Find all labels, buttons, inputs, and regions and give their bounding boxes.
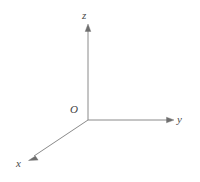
z-axis-label: z — [82, 10, 86, 21]
x-axis-arrowhead-icon — [29, 156, 39, 160]
origin-label: O — [70, 104, 78, 115]
x-axis-line — [34, 120, 88, 156]
y-axis-arrowhead-icon — [167, 117, 175, 123]
coordinate-axes-figure: z y x O — [0, 0, 200, 182]
x-axis-label: x — [16, 158, 21, 169]
axes-drawing-canvas — [0, 0, 200, 182]
y-axis-label: y — [177, 114, 182, 125]
z-axis-arrowhead-icon — [85, 24, 91, 32]
